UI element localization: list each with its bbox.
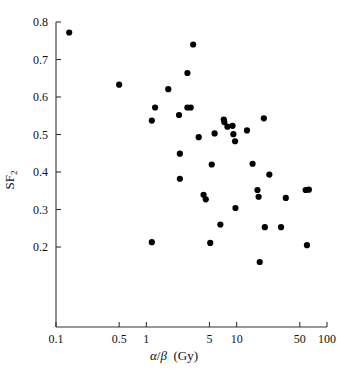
data-point [152, 104, 158, 110]
axis-group [56, 22, 327, 327]
data-point [262, 224, 268, 230]
x-tick-label-0.5: 0.5 [112, 332, 127, 346]
tick-group [56, 22, 327, 327]
data-point [244, 127, 250, 133]
data-point [209, 161, 215, 167]
data-point [278, 224, 284, 230]
data-point [229, 123, 235, 129]
data-point [196, 134, 202, 140]
plot-canvas: 0.10.5151050100 0.20.30.40.50.60.70.8 α/… [0, 0, 348, 375]
y-tick-label-0.8: 0.8 [33, 15, 48, 29]
x-axis-title: α/β (Gy) [150, 348, 198, 363]
data-point [149, 118, 155, 124]
x-tick-label-5: 5 [206, 332, 212, 346]
y-tick-label-0.6: 0.6 [33, 90, 48, 104]
y-axis-title-sub: 2 [9, 171, 19, 176]
data-point [188, 104, 194, 110]
data-point [261, 115, 267, 121]
data-point [217, 221, 223, 227]
data-point [207, 240, 213, 246]
data-point [190, 41, 196, 47]
data-point [304, 242, 310, 248]
data-point [256, 194, 262, 200]
x-tick-label-50: 50 [294, 332, 306, 346]
x-tick-label-0.1: 0.1 [49, 332, 64, 346]
data-point [283, 195, 289, 201]
y-tick-label-0.3: 0.3 [33, 203, 48, 217]
data-point [254, 187, 260, 193]
data-point [232, 138, 238, 144]
scatter-plot-figure: 0.10.5151050100 0.20.30.40.50.60.70.8 α/… [0, 0, 348, 375]
y-axis-title-main: SF [2, 175, 17, 189]
y-tick-labels: 0.20.30.40.50.60.70.8 [33, 15, 48, 254]
x-tick-label-100: 100 [318, 332, 336, 346]
data-point [249, 161, 255, 167]
y-tick-label-0.7: 0.7 [33, 53, 48, 67]
data-point [212, 130, 218, 136]
x-tick-label-10: 10 [231, 332, 243, 346]
data-point [266, 172, 272, 178]
y-tick-label-0.4: 0.4 [33, 165, 48, 179]
data-point [257, 259, 263, 265]
y-axis-title: SF2 [2, 171, 19, 190]
data-point [66, 29, 72, 35]
data-point [306, 187, 312, 193]
data-point [165, 86, 171, 92]
data-point [184, 70, 190, 76]
data-point [230, 131, 236, 137]
data-point [203, 196, 209, 202]
data-point [232, 205, 238, 211]
data-point [116, 82, 122, 88]
x-tick-labels: 0.10.5151050100 [49, 332, 337, 346]
data-point [149, 239, 155, 245]
x-tick-label-1: 1 [143, 332, 149, 346]
y-tick-label-0.2: 0.2 [33, 240, 48, 254]
data-point [177, 176, 183, 182]
y-tick-label-0.5: 0.5 [33, 128, 48, 142]
data-point [176, 112, 182, 118]
data-points [66, 29, 312, 265]
data-point [177, 151, 183, 157]
